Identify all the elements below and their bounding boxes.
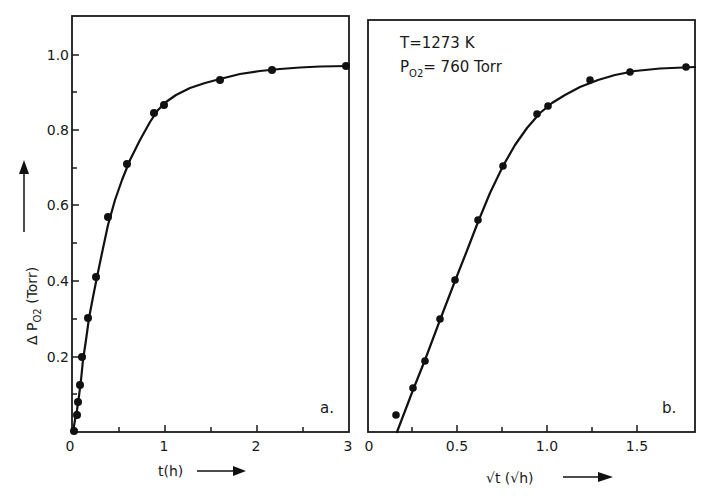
data-point (499, 162, 507, 170)
data-point (586, 76, 594, 84)
panel-a-y-tick-labels: 1.0 0.8 0.6 0.4 0.2 (47, 47, 69, 365)
x-tick-label: 0.5 (446, 438, 468, 454)
panel-b: 0 0.5 1.0 1.5 √t (√h) T=1273 K PO2= 760 … (365, 20, 695, 486)
x-tick-label: 1.5 (626, 438, 648, 454)
data-point (92, 273, 100, 281)
panel-b-x-axis-label: √t (√h) (486, 470, 613, 486)
x-tick-label: 2 (252, 438, 261, 454)
panel-a-y-axis-label: Δ PO2 (Torr) (24, 267, 43, 345)
panel-a-data-points (70, 62, 350, 435)
y-tick-label: 0.2 (47, 349, 69, 365)
x-tick-label: 1 (160, 438, 169, 454)
data-point (682, 63, 690, 71)
panel-b-tag: b. (662, 399, 676, 417)
data-point (150, 109, 158, 117)
panel-a-fit-curve (73, 66, 349, 432)
x-axis-arrowhead-icon (598, 472, 613, 482)
panel-a: 1.0 0.8 0.6 0.4 0.2 0 1 2 3 t(h) Δ PO2 (… (19, 16, 352, 479)
y-tick-label: 0.8 (47, 122, 69, 138)
x-tick-label: 3 (344, 438, 353, 454)
x-axis-arrowhead-icon (233, 466, 246, 476)
panel-a-x-tick-labels: 0 1 2 3 (66, 438, 353, 454)
data-point (342, 62, 350, 70)
data-point (123, 160, 131, 168)
data-point (216, 76, 224, 84)
data-point (78, 353, 86, 361)
data-point (533, 110, 541, 118)
panel-a-tag: a. (320, 399, 334, 417)
y-tick-label: 1.0 (47, 47, 69, 63)
y-axis-arrowhead-icon (19, 160, 29, 174)
data-point (76, 381, 84, 389)
panel-b-annotation: T=1273 K PO2= 760 Torr (399, 34, 503, 79)
panel-b-x-ticks (412, 425, 637, 432)
data-point (409, 384, 417, 392)
data-point (73, 411, 81, 419)
data-point (268, 66, 276, 74)
data-point (474, 216, 482, 224)
y-tick-label: 0.6 (47, 197, 69, 213)
temperature-label: T=1273 K (399, 34, 476, 52)
data-point (544, 102, 552, 110)
pressure-label: PO2= 760 Torr (400, 58, 503, 79)
data-point (84, 314, 92, 322)
data-point (451, 276, 459, 284)
data-point (70, 427, 78, 435)
data-point (392, 411, 400, 419)
panel-b-frame (368, 20, 695, 432)
panel-a-frame (72, 16, 349, 432)
x-axis-label: t(h) (158, 463, 183, 479)
data-point (626, 68, 634, 76)
panel-a-y-ticks (72, 55, 79, 394)
figure: 1.0 0.8 0.6 0.4 0.2 0 1 2 3 t(h) Δ PO2 (… (0, 0, 712, 499)
panel-b-fit-curve (397, 67, 695, 432)
panel-b-x-tick-labels: 0 0.5 1.0 1.5 (365, 438, 649, 454)
x-tick-label: 0 (66, 438, 75, 454)
data-point (104, 213, 112, 221)
data-point (74, 398, 82, 406)
panel-b-data-points (392, 63, 690, 419)
y-tick-label: 0.4 (47, 273, 69, 289)
data-point (160, 101, 168, 109)
data-point (436, 315, 444, 323)
x-tick-label: 0 (365, 438, 374, 454)
x-tick-label: 1.0 (536, 438, 558, 454)
y-axis-label: Δ PO2 (Torr) (24, 267, 43, 345)
x-axis-label: √t (√h) (486, 470, 534, 486)
data-point (421, 357, 429, 365)
panel-a-x-axis-label: t(h) (158, 463, 246, 479)
panel-a-x-ticks (119, 425, 303, 432)
